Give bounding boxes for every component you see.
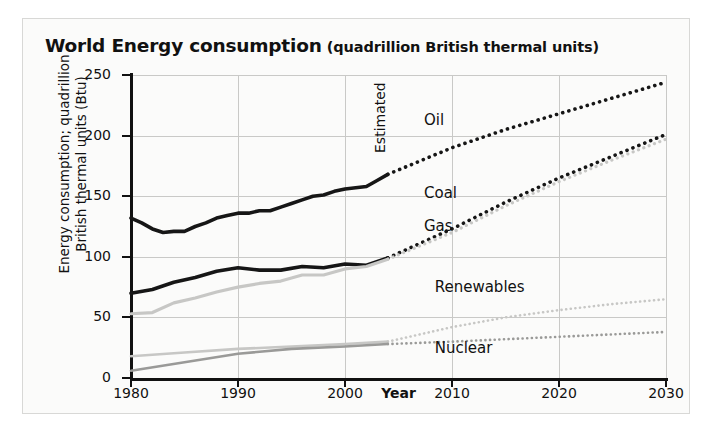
x-tick-label: 2020 [524, 385, 594, 401]
series-label-nuclear: Nuclear [435, 339, 493, 357]
series-line-historical-oil [131, 174, 388, 232]
y-tick-label: 100 [51, 248, 111, 264]
x-axis-title: Year [369, 385, 429, 401]
y-tick-label: 200 [51, 127, 111, 143]
series-lines [131, 75, 666, 378]
series-label-coal: Coal [424, 184, 457, 202]
series-label-renewables: Renewables [435, 278, 525, 296]
series-line-historical-gas [131, 259, 388, 314]
y-tick-label: 150 [51, 187, 111, 203]
series-label-oil: Oil [424, 111, 444, 129]
series-line-forecast-nuclear [388, 332, 666, 344]
y-tick-label: 0 [51, 369, 111, 385]
estimated-annotation: Estimated [372, 82, 388, 153]
x-tick-label: 1990 [203, 385, 273, 401]
gridline-vertical [666, 75, 667, 378]
chart-title-sub: (quadrillion British thermal units) [327, 39, 599, 55]
y-tick-label: 50 [51, 308, 111, 324]
series-line-forecast-renewables [388, 299, 666, 341]
y-tick-label: 250 [51, 66, 111, 82]
plot-area: 050100150200250 198019902000201020202030… [131, 75, 666, 378]
x-axis-line [130, 378, 668, 381]
chart-panel: World Energy consumption (quadrillion Br… [22, 18, 690, 414]
series-label-gas: Gas [424, 217, 453, 235]
x-tick-label: 1980 [96, 385, 166, 401]
series-line-historical-renewables [131, 342, 388, 357]
chart-title: World Energy consumption (quadrillion Br… [45, 35, 599, 56]
series-line-historical-coal [131, 258, 388, 293]
x-tick-label: 2030 [631, 385, 701, 401]
